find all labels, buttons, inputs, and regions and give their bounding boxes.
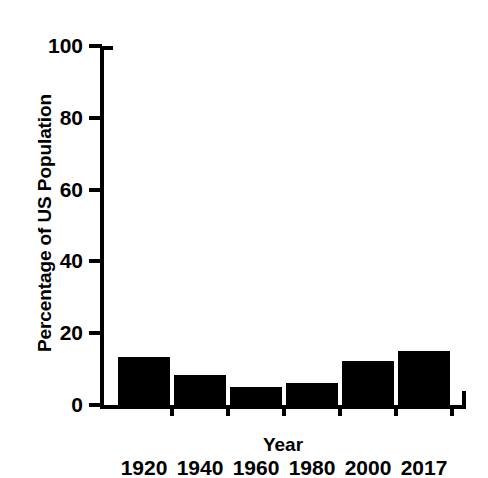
bar-1920 — [118, 357, 170, 405]
x-tick-1960 — [282, 405, 286, 416]
x-tick-1920 — [170, 405, 174, 416]
x-tick-label-1920: 1920 — [114, 456, 174, 478]
y-axis-line — [100, 46, 104, 405]
y-tick-80: 80 — [89, 116, 102, 120]
x-axis-title: Year — [100, 434, 466, 456]
x-tick-1940 — [226, 405, 230, 416]
bar-1960 — [230, 387, 282, 405]
bar-1980 — [286, 383, 338, 405]
y-tick-label: 20 — [60, 321, 83, 345]
x-tick-label-2000: 2000 — [338, 456, 398, 478]
y-axis-title: Percentage of US Population — [22, 43, 68, 403]
bar-1940 — [174, 375, 226, 405]
y-tick-100: 100 — [89, 44, 102, 48]
y-tick-label: 60 — [60, 178, 83, 202]
y-tick-label: 100 — [48, 34, 83, 58]
y-tick-60: 60 — [89, 188, 102, 192]
y-tick-label: 40 — [60, 249, 83, 273]
bar-2000 — [342, 361, 394, 405]
y-tick-40: 40 — [89, 259, 102, 263]
x-tick-2000 — [394, 405, 398, 416]
x-tick-label-1940: 1940 — [170, 456, 230, 478]
x-tick-2017 — [450, 405, 454, 416]
x-axis-right-cap — [462, 391, 466, 409]
x-tick-label-1980: 1980 — [282, 456, 342, 478]
bar-chart-figure: Percentage of US Population 020406080100… — [0, 0, 488, 478]
bar-2017 — [398, 351, 450, 405]
y-tick-0: 0 — [89, 403, 102, 407]
y-tick-label: 0 — [71, 393, 83, 417]
x-tick-label-2017: 2017 — [394, 456, 454, 478]
y-tick-20: 20 — [89, 331, 102, 335]
y-tick-label: 80 — [60, 106, 83, 130]
x-tick-1980 — [338, 405, 342, 416]
x-tick-label-1960: 1960 — [226, 456, 286, 478]
plot-area: 020406080100 192019401960198020002017 — [100, 46, 466, 405]
